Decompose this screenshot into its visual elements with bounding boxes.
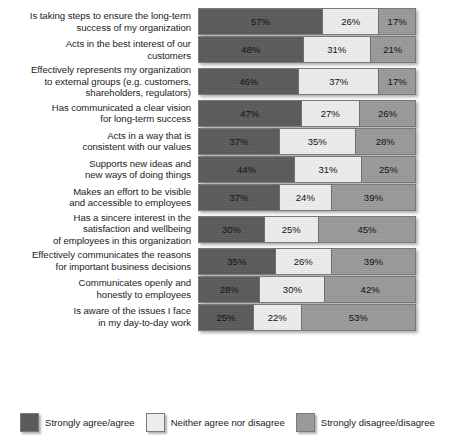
chart-legend: Strongly agree/agreeNeither agree nor di… bbox=[0, 413, 455, 432]
bar-container: 30%25%45% bbox=[198, 216, 417, 243]
bar-segment-value: 17% bbox=[388, 76, 407, 87]
bar-container: 28%30%42% bbox=[198, 276, 417, 303]
legend-swatch bbox=[20, 413, 39, 432]
bar-segment-value: 39% bbox=[364, 192, 383, 203]
bar-segment-value: 25% bbox=[282, 224, 301, 235]
bar-segment-value: 25% bbox=[216, 312, 235, 323]
bar-segment-value: 26% bbox=[341, 16, 360, 27]
stacked-bar: 44%31%25% bbox=[198, 156, 416, 183]
bar-segment-value: 46% bbox=[239, 76, 258, 87]
row-category-label: Supports new ideas andnew ways of doing … bbox=[0, 158, 198, 181]
row-category-label-line: success of my organization bbox=[0, 22, 191, 34]
bar-segment-value: 21% bbox=[383, 44, 402, 55]
bar-segment: 48% bbox=[199, 37, 303, 62]
row-category-label-line: honestly to employees bbox=[0, 289, 191, 301]
bar-segment-value: 26% bbox=[378, 108, 397, 119]
bar-segment-value: 48% bbox=[241, 44, 260, 55]
bar-segment-value: 22% bbox=[268, 312, 287, 323]
stacked-bar: 30%25%45% bbox=[198, 216, 416, 243]
bar-segment: 21% bbox=[370, 37, 415, 62]
bar-segment: 31% bbox=[294, 157, 361, 182]
chart-row: Acts in a way that isconsistent with our… bbox=[0, 128, 455, 155]
chart-row: Communicates openly andhonestly to emplo… bbox=[0, 276, 455, 303]
chart-row: Supports new ideas andnew ways of doing … bbox=[0, 156, 455, 183]
stacked-bar-chart: Is taking steps to ensure the long-terms… bbox=[0, 0, 455, 446]
bar-segment: 28% bbox=[199, 277, 259, 302]
bar-segment: 45% bbox=[318, 217, 415, 242]
row-category-label-line: and accessible to employees bbox=[0, 197, 191, 209]
stacked-bar: 28%30%42% bbox=[198, 276, 416, 303]
row-category-label-line: consistent with our values bbox=[0, 141, 191, 153]
bar-container: 44%31%25% bbox=[198, 156, 417, 183]
stacked-bar: 47%27%26% bbox=[198, 100, 416, 127]
bar-segment-value: 35% bbox=[308, 136, 327, 147]
bar-segment-value: 42% bbox=[361, 284, 380, 295]
chart-rows: Is taking steps to ensure the long-terms… bbox=[0, 8, 455, 332]
row-category-label-line: Communicates openly and bbox=[0, 277, 191, 289]
row-category-label: Has a sincere interest in thesatisfactio… bbox=[0, 212, 198, 247]
bar-container: 47%27%26% bbox=[198, 100, 417, 127]
bar-segment-value: 47% bbox=[240, 108, 259, 119]
legend-item: Strongly agree/agree bbox=[20, 413, 135, 432]
bar-segment: 57% bbox=[199, 9, 322, 34]
row-category-label-line: for important business decisions bbox=[0, 261, 191, 273]
row-category-label-line: to external groups (e.g. customers, bbox=[0, 76, 191, 88]
bar-segment: 35% bbox=[199, 249, 275, 274]
bar-segment: 17% bbox=[378, 9, 415, 34]
row-category-label-line: customers bbox=[0, 50, 191, 62]
row-category-label-line: Acts in a way that is bbox=[0, 130, 191, 142]
bar-segment: 26% bbox=[359, 101, 415, 126]
bar-segment-value: 30% bbox=[222, 224, 241, 235]
stacked-bar: 37%35%28% bbox=[198, 128, 416, 155]
bar-segment-value: 30% bbox=[283, 284, 302, 295]
row-category-label: Effectively communicates the reasonsfor … bbox=[0, 249, 198, 272]
bar-segment: 22% bbox=[253, 305, 301, 330]
bar-segment-value: 39% bbox=[364, 256, 383, 267]
stacked-bar: 48%31%21% bbox=[198, 36, 416, 63]
bar-container: 37%24%39% bbox=[198, 184, 417, 211]
chart-row: Has a sincere interest in thesatisfactio… bbox=[0, 212, 455, 247]
row-category-label-line: Has communicated a clear vision bbox=[0, 102, 191, 114]
bar-segment: 35% bbox=[279, 129, 355, 154]
bar-segment-value: 57% bbox=[251, 16, 270, 27]
bar-container: 25%22%53% bbox=[198, 304, 417, 331]
legend-swatch bbox=[296, 413, 315, 432]
stacked-bar: 35%26%39% bbox=[198, 248, 416, 275]
stacked-bar: 57%26%17% bbox=[198, 8, 416, 35]
bar-segment: 37% bbox=[298, 69, 378, 94]
bar-segment-value: 17% bbox=[388, 16, 407, 27]
bar-segment-value: 24% bbox=[296, 192, 315, 203]
bar-segment-value: 28% bbox=[220, 284, 239, 295]
bar-container: 46%37%17% bbox=[198, 68, 417, 95]
bar-segment: 47% bbox=[199, 101, 301, 126]
bar-segment: 39% bbox=[331, 185, 415, 210]
bar-segment-value: 31% bbox=[319, 164, 338, 175]
row-category-label-line: in my day-to-day work bbox=[0, 317, 191, 329]
row-category-label-line: Has a sincere interest in the bbox=[0, 212, 191, 224]
bar-segment: 39% bbox=[331, 249, 415, 274]
bar-segment: 37% bbox=[199, 129, 279, 154]
row-category-label-line: satisfaction and wellbeing bbox=[0, 223, 191, 235]
bar-segment: 31% bbox=[303, 37, 370, 62]
stacked-bar: 37%24%39% bbox=[198, 184, 416, 211]
row-category-label: Communicates openly andhonestly to emplo… bbox=[0, 277, 198, 300]
bar-segment-value: 37% bbox=[329, 76, 348, 87]
bar-segment: 42% bbox=[324, 277, 415, 302]
row-category-label: Is aware of the issues I facein my day-t… bbox=[0, 305, 198, 328]
bar-segment-value: 45% bbox=[357, 224, 376, 235]
row-category-label-line: for long-term success bbox=[0, 113, 191, 125]
bar-segment-value: 37% bbox=[229, 136, 248, 147]
bar-container: 37%35%28% bbox=[198, 128, 417, 155]
bar-segment: 25% bbox=[361, 157, 415, 182]
row-category-label-line: Supports new ideas and bbox=[0, 158, 191, 170]
bar-segment: 30% bbox=[199, 217, 264, 242]
bar-container: 35%26%39% bbox=[198, 248, 417, 275]
row-category-label-line: Is taking steps to ensure the long-term bbox=[0, 10, 191, 22]
row-category-label-line: new ways of doing things bbox=[0, 169, 191, 181]
row-category-label: Has communicated a clear visionfor long-… bbox=[0, 102, 198, 125]
bar-segment: 53% bbox=[301, 305, 415, 330]
legend-item: Neither agree nor disagree bbox=[146, 413, 285, 432]
bar-segment-value: 26% bbox=[294, 256, 313, 267]
legend-label: Strongly agree/agree bbox=[45, 417, 135, 428]
bar-segment: 26% bbox=[275, 249, 331, 274]
